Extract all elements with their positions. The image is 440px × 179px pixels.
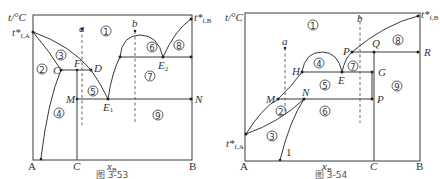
point-g [371,71,374,74]
svg-text:5: 5 [322,81,327,91]
point-a-start [284,47,287,50]
svg-text:7: 7 [350,62,355,72]
point-e2-label: E2 [157,59,169,73]
region-5: 5 [320,80,330,91]
component-a-label: A [28,160,36,172]
svg-text:8: 8 [395,36,400,46]
point-melting-b [417,15,420,18]
y-axis-label: t/°C [225,11,244,23]
svg-text:7: 7 [147,72,152,82]
component-a-label: A [240,160,248,172]
region-7: 7 [145,71,155,82]
region-2: 2 [276,106,286,117]
region-5: 5 [88,86,98,97]
region-4: 4 [54,108,64,119]
region-9: 9 [153,110,163,121]
component-b-label: B [416,160,423,172]
point-e-label: E [337,74,345,86]
point-h-label: H [291,65,301,77]
svg-text:9: 9 [155,111,160,121]
component-b-label: B [189,160,196,172]
point-solvus-base [40,158,43,161]
svg-text:2: 2 [39,65,44,75]
point-r [417,51,420,54]
point-n-label: N [194,93,203,105]
region-6: 6 [147,42,157,53]
point-e1-label: E1 [102,101,114,114]
point-melting-a [32,31,35,34]
compound-c-label: C [73,160,81,172]
svg-text:9: 9 [394,82,399,92]
svg-text:6: 6 [149,43,154,53]
region-6: 6 [320,106,330,117]
svg-text:5: 5 [90,87,95,97]
region-3: 3 [267,131,277,142]
svg-text:4: 4 [56,109,61,119]
point-m [277,98,280,101]
path-a-label: a [282,35,288,47]
point-h [301,71,304,74]
point-gap-left [119,56,122,59]
svg-text:1: 1 [310,21,315,31]
figure-caption: 图 3-54 [315,170,348,179]
point-p-high [351,51,354,54]
point-melting-a [245,133,248,136]
region-9: 9 [392,81,402,92]
region-1: 1 [101,26,111,37]
diagram-frame [33,15,192,160]
figure-3-54: t/°C t*f,A t*f,B a b M N P H E G P Q R 1… [225,8,439,179]
path-b-label: b [357,12,363,24]
point-p-low [371,98,374,101]
point-n-label: N [301,86,310,98]
point-c-label: C [53,64,61,76]
miscibility-gap [302,52,342,72]
y-axis-label: t/°C [8,11,27,23]
svg-text:4: 4 [316,59,321,69]
svg-text:3: 3 [58,51,63,61]
point-d [90,69,93,72]
point-d-label: D [93,62,102,74]
melting-b-label: t*f,B [194,11,212,25]
point-m [76,98,79,101]
svg-text:1: 1 [103,27,108,37]
point-q-label: Q [372,37,380,49]
liquidus-mid [108,57,120,99]
point-r-label: R [423,46,431,58]
point-q [373,51,376,54]
point-b-start [134,30,137,33]
liquidus-b-side [163,19,191,57]
point-f-label: F [73,57,81,69]
svg-text:2: 2 [278,107,283,117]
point-p-high-label: P [342,45,350,57]
path-a-label: a [79,22,85,34]
region-2: 2 [37,64,47,75]
phase-diagrams: t/°C t*f,A t*f,B a b C F D M N E1 E2 A C… [0,0,440,179]
region-8: 8 [174,40,184,51]
svg-text:6: 6 [322,107,327,117]
svg-text:3: 3 [269,132,274,142]
point-gap-right [190,56,193,59]
point-solvus-base [279,159,282,162]
point-g-label: G [378,66,386,78]
point-m-label: M [265,93,276,105]
melting-a-label: t*f,A [12,26,30,40]
point-melting-b [190,18,193,21]
region-3: 3 [56,50,66,61]
point-one-label: 1 [286,146,292,158]
melting-a-label: t*f,A [226,137,244,151]
region-4: 4 [314,58,324,69]
svg-text:8: 8 [176,41,181,51]
point-p-low-label: P [376,93,384,105]
point-m-label: M [65,93,76,105]
region-7: 7 [348,61,358,72]
path-b-label: b [132,17,138,29]
figure-caption: 图 3-53 [96,170,128,179]
figure-3-53: t/°C t*f,A t*f,B a b C F D M N E1 E2 A C… [8,11,212,179]
point-n [190,98,193,101]
region-1: 1 [308,20,318,31]
point-f [76,69,79,72]
region-8: 8 [393,35,403,46]
compound-c-label: C [370,160,378,172]
melting-b-label: t*f,B [421,8,439,22]
